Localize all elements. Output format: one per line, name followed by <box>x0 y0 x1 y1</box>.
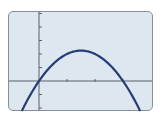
parabola-curve <box>22 51 140 111</box>
graph-plot <box>0 0 163 120</box>
